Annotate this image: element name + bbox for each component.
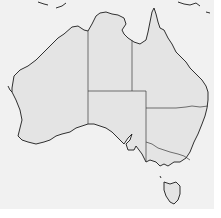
island-right-small [206, 12, 210, 13]
north-islands-center [56, 3, 66, 8]
png-coast-right [178, 2, 200, 6]
north-islands-left [38, 2, 48, 5]
wa-shark-bay [8, 86, 12, 92]
mainland-australia [12, 8, 208, 166]
australia-map [0, 0, 221, 218]
tasmania [164, 182, 180, 204]
island-south-coast [160, 176, 161, 178]
